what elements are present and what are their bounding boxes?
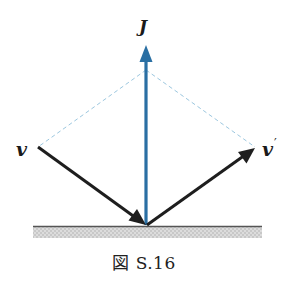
label-v-prime-base: v [262, 138, 273, 160]
dashed-line-left [38, 70, 146, 147]
dashed-line-right [146, 70, 255, 147]
label-v-prime: v′ [262, 140, 276, 159]
arrowhead-J-icon [140, 45, 153, 62]
vector-J-arrow [140, 45, 153, 225]
vector-v-prime-arrow [147, 148, 255, 225]
label-v: v [16, 140, 27, 159]
arrowhead-v-prime-icon [238, 148, 255, 164]
reflection-diagram: J v v′ 図 S.16 [0, 0, 288, 281]
surface [33, 227, 262, 239]
surface-hatch [33, 227, 262, 238]
vector-v-arrow [38, 147, 146, 225]
diagram-canvas [0, 0, 288, 281]
figure-caption: 図 S.16 [0, 249, 288, 274]
arrowhead-v-icon [129, 209, 147, 225]
prime-mark: ′ [274, 137, 277, 151]
label-J: J [139, 18, 147, 35]
